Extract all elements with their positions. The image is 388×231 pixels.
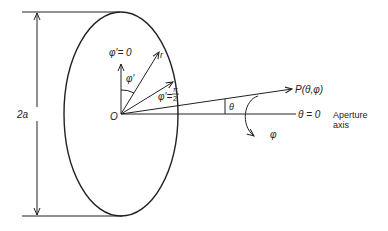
phi-prime-label: φ′ — [126, 73, 136, 84]
theta-zero-label: θ = 0 — [298, 109, 321, 120]
dimension-label: 2a — [16, 109, 29, 120]
observation-point-arrow — [121, 89, 292, 114]
phi-prime-half-pi-label: φ′= π 2 — [158, 86, 179, 102]
phi-prime-angle-arc — [121, 90, 134, 93]
phi-prime-zero-label: φ′= 0 — [109, 47, 132, 58]
aperture-diagram: 2a φ′= 0 φ′ r φ′= π 2 O P(θ,φ) θ θ = 0 A… — [0, 0, 388, 231]
dimension-2a: 2a — [14, 12, 122, 216]
phi-prime-eq-label: φ′= — [158, 91, 172, 102]
theta-label: θ — [229, 102, 234, 112]
aperture-axis-label-line1: Aperture — [333, 110, 368, 120]
pi-label: π — [173, 86, 178, 93]
phi-rotation-arrow — [245, 96, 258, 136]
r-label: r — [160, 50, 164, 60]
point-p-label: P(θ,φ) — [295, 84, 323, 95]
aperture-axis-label-line2: axis — [333, 120, 350, 130]
phi-label: φ — [270, 129, 277, 140]
two-label: 2 — [173, 95, 177, 102]
origin-label: O — [110, 111, 118, 122]
